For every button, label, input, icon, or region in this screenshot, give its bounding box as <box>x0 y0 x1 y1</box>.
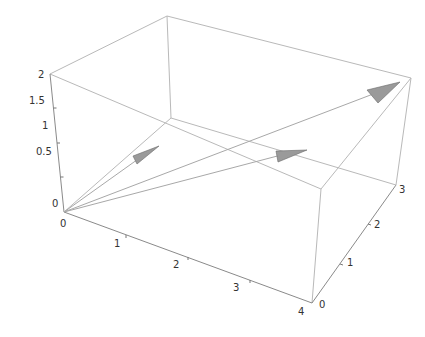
z-tick-label-1.5: 1.5 <box>29 96 45 106</box>
3d-vector-plot <box>0 0 425 337</box>
z-tick-label-0: 0 <box>52 199 58 209</box>
z-tick-label-2: 2 <box>38 70 44 80</box>
z-tick-label-1: 1 <box>42 121 48 131</box>
bounding-box <box>50 16 411 303</box>
y-tick-label-2: 2 <box>374 220 380 230</box>
axis-ticks <box>54 108 372 283</box>
x-tick-label-1: 1 <box>114 239 120 249</box>
box-edge-top-front <box>50 74 321 189</box>
vector-2-arrowhead <box>276 150 307 162</box>
y-tick-label-1: 1 <box>347 258 353 268</box>
vector-3-arrowhead <box>367 82 400 103</box>
vector-3-shaft <box>64 91 381 212</box>
x-tick-label-3: 3 <box>233 283 239 293</box>
box-edge-vertical-front-right <box>312 189 321 303</box>
x-tick-label-2: 2 <box>173 260 179 270</box>
x-tick-label-4: 4 <box>298 307 304 317</box>
z-tick-label-0.5: 0.5 <box>36 147 52 157</box>
vector-1-arrowhead <box>133 146 159 164</box>
box-edge-vertical-back-left <box>167 16 171 118</box>
x-tick-label-0: 0 <box>60 219 66 229</box>
y-tick-label-0: 0 <box>319 300 325 310</box>
y-axis-line <box>312 185 396 303</box>
box-edge-top-back <box>167 16 411 78</box>
box-edge-top-left <box>50 16 167 74</box>
y-tick-label-3: 3 <box>399 185 405 195</box>
